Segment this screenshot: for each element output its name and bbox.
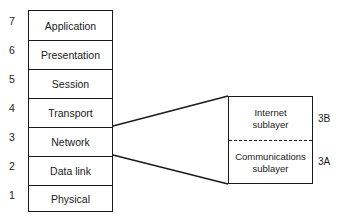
sublayer-id-3b: 3B bbox=[318, 113, 330, 124]
layer-session: Session bbox=[29, 69, 112, 98]
layer-data-link: Data link bbox=[29, 156, 112, 185]
layer-label: Transport bbox=[48, 107, 93, 119]
layer-application: Application bbox=[29, 11, 112, 40]
layer-label: Physical bbox=[51, 193, 90, 205]
osi-layer-stack: Application Presentation Session Transpo… bbox=[28, 10, 113, 212]
layer-label: Network bbox=[51, 136, 90, 148]
layer-label: Application bbox=[45, 20, 96, 32]
layer-physical: Physical bbox=[29, 185, 112, 212]
lower-connector-line bbox=[113, 155, 228, 184]
layer-number-7: 7 bbox=[5, 15, 19, 27]
upper-connector-line bbox=[113, 96, 228, 126]
layer-number-1: 1 bbox=[5, 189, 19, 201]
layer-number-5: 5 bbox=[5, 73, 19, 85]
layer-number-6: 6 bbox=[5, 44, 19, 56]
layer-transport: Transport bbox=[29, 98, 112, 127]
communications-sublayer: Communications sublayer bbox=[229, 141, 312, 184]
layer-label: Presentation bbox=[41, 49, 100, 61]
layer-number-2: 2 bbox=[5, 160, 19, 172]
sublayer-id-3a: 3A bbox=[318, 156, 330, 167]
layer-number-3: 3 bbox=[5, 131, 19, 143]
sublayer-label-line1: Internet bbox=[253, 107, 289, 119]
layer-label: Session bbox=[52, 78, 89, 90]
layer-number-4: 4 bbox=[5, 102, 19, 114]
sublayer-label-line1: Communications bbox=[235, 151, 306, 163]
layer-network: Network bbox=[29, 127, 112, 156]
network-sublayer-box: Internet sublayer Communications sublaye… bbox=[228, 96, 313, 184]
layer-label: Data link bbox=[50, 165, 91, 177]
internet-sublayer: Internet sublayer bbox=[229, 97, 312, 140]
sublayer-label-line2: sublayer bbox=[253, 119, 289, 131]
sublayer-label-line2: sublayer bbox=[235, 163, 306, 175]
layer-presentation: Presentation bbox=[29, 40, 112, 69]
